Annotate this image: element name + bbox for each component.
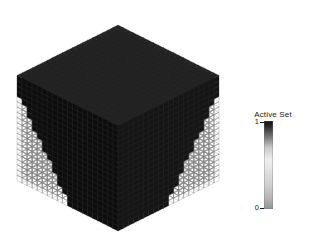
colorbar-gradient-strip [264,121,273,209]
colorbar-tick-max: 1 [243,117,259,126]
voxel-figure: Active Set 1 0 [0,0,309,249]
colorbar-tick-min: 0 [243,203,259,212]
voxel-cube [17,25,219,231]
colorbar [264,121,273,209]
voxel-cube-plot [0,0,309,249]
